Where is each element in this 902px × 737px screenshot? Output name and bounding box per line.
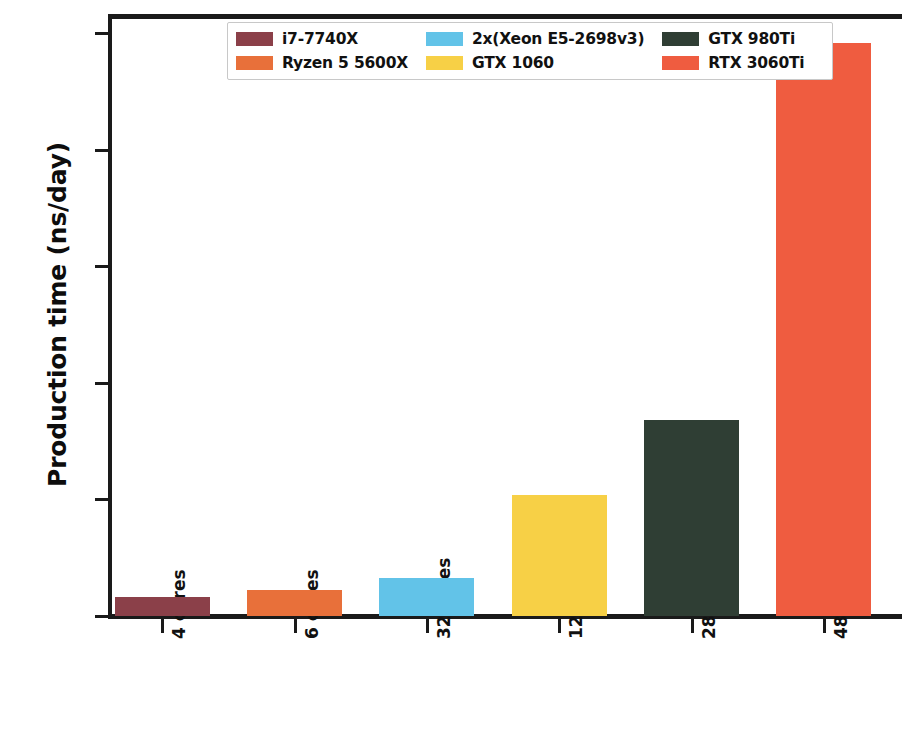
- legend-entry: GTX 1060: [426, 53, 644, 73]
- legend-column: GTX 980TiRTX 3060Ti: [662, 29, 822, 73]
- legend-entry: 2x(Xeon E5-2698v3): [426, 29, 644, 49]
- legend-entry: Ryzen 5 5600X: [236, 53, 408, 73]
- bar: [776, 43, 871, 616]
- bar: [644, 420, 739, 616]
- x-tick-mark: [426, 619, 429, 633]
- x-tick-mark: [294, 619, 297, 633]
- legend-color-swatch: [662, 32, 699, 46]
- bar: [247, 590, 342, 616]
- legend-label: 2x(Xeon E5-2698v3): [472, 30, 644, 48]
- y-tick-mark: [95, 498, 108, 501]
- legend-label: GTX 980Ti: [708, 30, 795, 48]
- legend-entry: GTX 980Ti: [662, 29, 804, 49]
- legend-color-swatch: [426, 56, 463, 70]
- legend-label: GTX 1060: [472, 54, 554, 72]
- y-tick-mark: [95, 149, 108, 152]
- bar: [379, 578, 474, 616]
- legend-label: Ryzen 5 5600X: [282, 54, 408, 72]
- legend-entry: RTX 3060Ti: [662, 53, 804, 73]
- legend-color-swatch: [662, 56, 699, 70]
- legend-label: RTX 3060Ti: [708, 54, 804, 72]
- chart-legend: i7-7740XRyzen 5 5600X2x(Xeon E5-2698v3)G…: [227, 22, 833, 80]
- y-tick-mark: [95, 32, 108, 35]
- legend-column: 2x(Xeon E5-2698v3)GTX 1060: [426, 29, 662, 73]
- bar-chart-figure: Production time (ns/day) 020040060080010…: [0, 0, 902, 737]
- y-axis-spine: [108, 14, 112, 619]
- top-spine: [108, 14, 902, 19]
- bar: [512, 495, 607, 616]
- y-tick-mark: [95, 382, 108, 385]
- y-tick-mark: [95, 615, 108, 618]
- y-axis-title: Production time (ns/day): [43, 105, 72, 525]
- plot-area: 02004006008001000 4 cores6 cores32 cores…: [108, 14, 902, 619]
- y-tick-mark: [95, 265, 108, 268]
- legend-color-swatch: [236, 32, 273, 46]
- x-tick-mark: [691, 619, 694, 633]
- bar: [115, 597, 210, 616]
- legend-entry: i7-7740X: [236, 29, 408, 49]
- x-tick-mark: [161, 619, 164, 633]
- legend-label: i7-7740X: [282, 30, 358, 48]
- legend-column: i7-7740XRyzen 5 5600X: [236, 29, 426, 73]
- x-tick-mark: [823, 619, 826, 633]
- legend-color-swatch: [236, 56, 273, 70]
- x-tick-mark: [558, 619, 561, 633]
- legend-color-swatch: [426, 32, 463, 46]
